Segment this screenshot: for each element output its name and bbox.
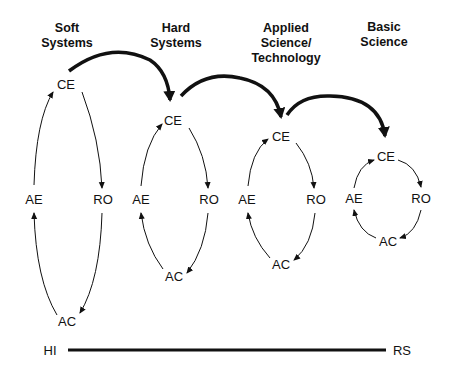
arrow-soft-to-hard: [69, 52, 170, 100]
axis-label-hi: HI: [44, 344, 57, 358]
arrow-ro-to-ac: [80, 213, 102, 313]
loop-hard-systems: [141, 124, 208, 273]
node-ae: AE: [238, 193, 255, 207]
stage-title-applied-science: Applied Science/ Technology: [251, 21, 320, 66]
title-line: Hard: [150, 21, 201, 36]
arrow-ae-to-ce: [141, 124, 162, 186]
title-line: Basic: [360, 20, 407, 35]
loop-applied-science: [248, 139, 315, 260]
node-ae: AE: [25, 193, 42, 207]
title-line: Science/: [251, 36, 320, 51]
arrow-ae-to-ce: [248, 139, 268, 186]
arrow-ac-to-ae: [34, 213, 57, 315]
stage-title-soft-systems: Soft Systems: [41, 21, 92, 51]
arrow-applied-to-basic: [287, 96, 385, 136]
arrow-ac-to-ae: [248, 213, 270, 258]
node-ro: RO: [199, 193, 219, 207]
node-ac: AC: [58, 315, 76, 329]
arrow-ce-to-ro: [296, 143, 314, 188]
node-ac: AC: [165, 270, 183, 284]
node-ce: CE: [164, 114, 182, 128]
title-line: Technology: [251, 51, 320, 66]
node-ae: AE: [132, 193, 149, 207]
arrow-ce-to-ro: [398, 160, 421, 187]
arrow-hard-to-applied: [181, 76, 281, 117]
node-ro: RO: [411, 192, 431, 206]
arrow-ac-to-ae: [141, 213, 163, 269]
stage-transition-arrows: [69, 52, 385, 136]
title-line: Systems: [150, 36, 201, 51]
arrow-ro-to-ac: [187, 213, 208, 273]
node-ac: AC: [272, 258, 290, 272]
loop-soft-systems: [34, 92, 102, 315]
arrow-ac-to-ae: [354, 210, 376, 238]
arrow-ce-to-ro: [189, 128, 208, 188]
stage-title-basic-science: Basic Science: [360, 20, 407, 50]
title-line: Soft: [41, 21, 92, 36]
stage-title-hard-systems: Hard Systems: [150, 21, 201, 51]
node-ce: CE: [377, 150, 395, 164]
node-ce: CE: [57, 78, 75, 92]
title-line: Systems: [41, 36, 92, 51]
node-ce: CE: [272, 130, 290, 144]
title-line: Science: [360, 35, 407, 50]
arrow-ae-to-ce: [354, 160, 374, 188]
node-ae: AE: [345, 192, 362, 206]
arrow-ro-to-ac: [400, 210, 421, 238]
arrow-ce-to-ro: [82, 92, 102, 188]
arrow-ro-to-ac: [294, 213, 315, 260]
node-ac: AC: [379, 235, 397, 249]
node-ro: RO: [306, 193, 326, 207]
axis-label-rs: RS: [393, 344, 411, 358]
node-ro: RO: [93, 193, 113, 207]
title-line: Applied: [251, 21, 320, 36]
arrow-ae-to-ce: [34, 92, 53, 185]
